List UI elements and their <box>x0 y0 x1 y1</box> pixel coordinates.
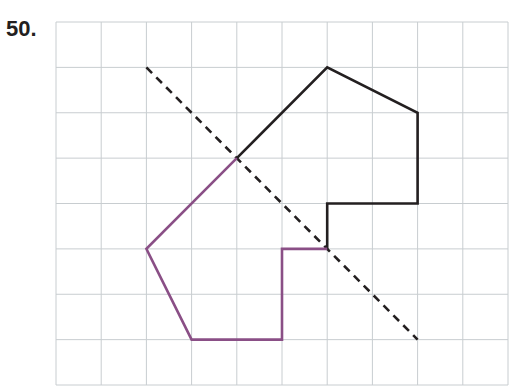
reflection-diagram <box>0 0 523 392</box>
